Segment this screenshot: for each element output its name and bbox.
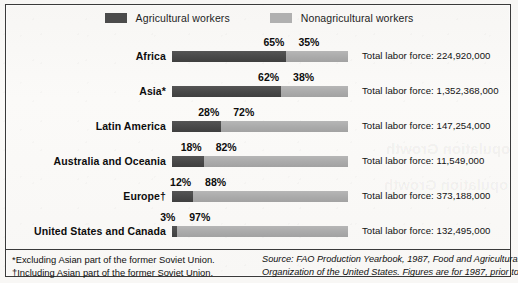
bar-segment-agricultural [172, 121, 221, 132]
bar-segment-agricultural [172, 51, 286, 62]
pct-label-nonagricultural: 38% [293, 71, 314, 83]
bar-segment-agricultural [172, 86, 281, 97]
pct-label-nonagricultural: 82% [216, 141, 237, 153]
region-label: Australia and Oceania [54, 155, 166, 167]
chart-row-united-states-and-canada: United States and Canada 3% 97% Total la… [0, 209, 518, 244]
chart-row-africa: Africa 65% 35% Total labor force: 224,92… [0, 34, 518, 69]
pct-label-agricultural: 3% [160, 211, 175, 223]
stacked-bar [172, 86, 348, 97]
bar-segment-nonagricultural [177, 226, 348, 237]
chart-row-europe: Europe† 12% 88% Total labor force: 373,1… [0, 174, 518, 209]
total-labor-force-label: Total labor force: 1,352,368,000 [362, 85, 499, 96]
region-label: United States and Canada [34, 225, 166, 237]
pct-label-agricultural: 18% [181, 141, 202, 153]
bar-segment-nonagricultural [221, 121, 348, 132]
footnote-dagger: †Including Asian part of the former Sovi… [12, 266, 257, 279]
pct-label-nonagricultural: 72% [233, 106, 254, 118]
footnote-asterisk: *Excluding Asian part of the former Sovi… [12, 253, 257, 266]
source-block: Source: FAO Production Yearbook, 1987, F… [262, 253, 510, 279]
stacked-bar [172, 51, 348, 62]
stacked-bar [172, 191, 348, 202]
legend-label-nonagricultural: Nonagricultural workers [301, 12, 414, 24]
pct-label-nonagricultural: 35% [298, 36, 319, 48]
bar-segment-agricultural [172, 156, 204, 167]
footnotes-block: *Excluding Asian part of the former Sovi… [12, 253, 257, 279]
region-label: Europe† [123, 190, 166, 202]
bar-segment-agricultural [172, 191, 193, 202]
source-line-1: Source: FAO Production Yearbook, 1987, F… [262, 253, 510, 266]
bar-segment-nonagricultural [281, 86, 348, 97]
legend-item-nonagricultural: Nonagricultural workers [270, 12, 414, 24]
chart-legend: Agricultural workers Nonagricultural wor… [0, 12, 518, 24]
total-labor-force-label: Total labor force: 147,254,000 [362, 120, 490, 131]
legend-swatch-light-icon [270, 13, 292, 23]
pct-label-agricultural: 65% [263, 36, 284, 48]
chart-row-australia-and-oceania: Australia and Oceania 18% 82% Total labo… [0, 139, 518, 174]
stacked-bar [172, 156, 348, 167]
total-labor-force-label: Total labor force: 11,549,000 [362, 155, 484, 166]
total-labor-force-label: Total labor force: 373,188,000 [362, 190, 490, 201]
total-labor-force-label: Total labor force: 224,920,000 [362, 50, 490, 61]
bar-segment-nonagricultural [204, 156, 348, 167]
pct-label-agricultural: 62% [258, 71, 279, 83]
footer-divider [6, 249, 510, 250]
source-line-2: Organization of the United States. Figur… [262, 266, 510, 279]
bar-segment-nonagricultural [286, 51, 348, 62]
legend-label-agricultural: Agricultural workers [136, 12, 230, 24]
total-labor-force-label: Total labor force: 132,495,000 [362, 225, 490, 236]
pct-label-nonagricultural: 88% [205, 176, 226, 188]
pct-label-agricultural: 12% [170, 176, 191, 188]
chart-rows: Africa 65% 35% Total labor force: 224,92… [0, 34, 518, 244]
region-label: Africa [136, 50, 166, 62]
pct-label-nonagricultural: 97% [189, 211, 210, 223]
region-label: Asia* [139, 85, 166, 97]
chart-row-latin-america: Latin America 28% 72% Total labor force:… [0, 104, 518, 139]
bar-segment-nonagricultural [193, 191, 348, 202]
stacked-bar [172, 226, 348, 237]
pct-label-agricultural: 28% [198, 106, 219, 118]
region-label: Latin America [96, 120, 166, 132]
legend-swatch-dark-icon [105, 13, 127, 23]
figure-panel: opulation Growth opulation Growth Agricu… [0, 0, 518, 283]
stacked-bar [172, 121, 348, 132]
legend-item-agricultural: Agricultural workers [105, 12, 230, 24]
chart-row-asia: Asia* 62% 38% Total labor force: 1,352,3… [0, 69, 518, 104]
